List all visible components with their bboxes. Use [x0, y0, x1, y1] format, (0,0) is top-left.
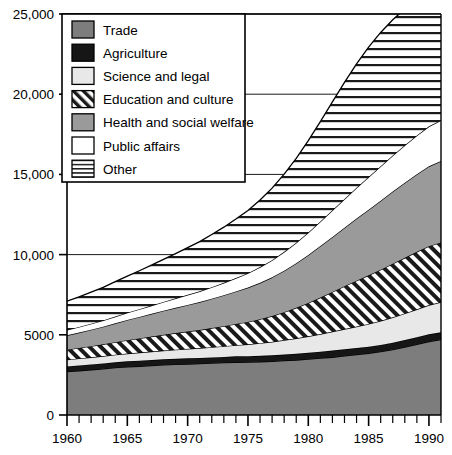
legend-label-health-and-social-welfare: Health and social welfare [103, 115, 254, 130]
stacked-area-chart: 0500010,00015,00020,00025,000 1960196519… [0, 0, 452, 455]
y-tick-label-5000: 5000 [24, 328, 54, 343]
chart-legend[interactable]: TradeAgricultureScience and legalEducati… [62, 14, 254, 182]
legend-swatch-other-swatch [72, 160, 94, 177]
legend-swatch-science-and-legal-swatch [72, 67, 94, 84]
legend-label-education-and-culture: Education and culture [103, 92, 234, 107]
x-tick-label-1965: 1965 [112, 431, 142, 446]
legend-swatch-trade-swatch [72, 21, 94, 38]
x-tick-label-1990: 1990 [414, 431, 444, 446]
y-tick-label-15000: 15,000 [13, 167, 54, 182]
legend-swatch-public-affairs-swatch [72, 137, 94, 154]
legend-label-science-and-legal: Science and legal [103, 69, 210, 84]
x-tick-label-1970: 1970 [173, 431, 203, 446]
legend-swatch-education-and-culture-swatch [72, 91, 94, 108]
legend-label-other: Other [103, 162, 137, 177]
chart-root: 0500010,00015,00020,00025,000 1960196519… [0, 0, 452, 455]
y-tick-label-0: 0 [46, 408, 54, 423]
y-tick-label-20000: 20,000 [13, 87, 54, 102]
legend-label-public-affairs: Public affairs [103, 139, 180, 154]
y-tick-label-25000: 25,000 [13, 7, 54, 22]
x-tick-label-1975: 1975 [233, 431, 263, 446]
legend-swatch-agriculture-swatch [72, 44, 94, 61]
x-tick-label-1985: 1985 [354, 431, 384, 446]
y-tick-label-10000: 10,000 [13, 248, 54, 263]
legend-swatch-health-and-social-welfare-swatch [72, 114, 94, 131]
x-tick-label-1980: 1980 [293, 431, 323, 446]
legend-label-trade: Trade [103, 23, 138, 38]
legend-label-agriculture: Agriculture [103, 46, 168, 61]
x-tick-label-1960: 1960 [52, 431, 82, 446]
